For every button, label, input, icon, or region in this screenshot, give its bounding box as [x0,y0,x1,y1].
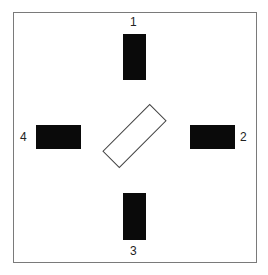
block-3 [123,193,146,240]
block-1 [123,34,146,80]
block-2-label: 2 [240,131,247,143]
block-1-label: 1 [130,16,137,28]
block-2 [190,125,235,149]
block-4 [36,125,81,149]
block-3-label: 3 [130,245,137,257]
block-4-label: 4 [20,131,27,143]
